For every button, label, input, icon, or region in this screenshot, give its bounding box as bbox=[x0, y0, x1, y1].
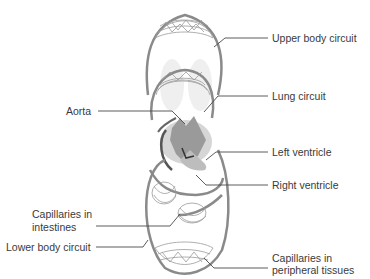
lower-body-circuit-loop bbox=[146, 150, 228, 274]
label-lower-body-circuit: Lower body circuit bbox=[6, 241, 91, 253]
heart bbox=[158, 116, 212, 171]
lungs-shading bbox=[160, 59, 212, 111]
label-capillaries-intestines-line2: intestines bbox=[32, 221, 76, 233]
label-left-ventricle: Left ventricle bbox=[272, 146, 332, 158]
intestine-capillaries bbox=[152, 182, 206, 223]
upper-capillaries-mesh bbox=[155, 20, 213, 38]
circulation-diagram: Upper body circuit Lung circuit Aorta Le… bbox=[0, 0, 370, 279]
label-capillaries-peripheral-line2: peripheral tissues bbox=[272, 264, 354, 276]
label-capillaries-peripheral-line1: Capillaries in bbox=[272, 252, 332, 264]
label-upper-body-circuit: Upper body circuit bbox=[272, 32, 357, 44]
label-aorta: Aorta bbox=[66, 105, 91, 117]
label-capillaries-intestines-line1: Capillaries in bbox=[32, 208, 92, 220]
label-right-ventricle: Right ventricle bbox=[272, 179, 339, 191]
peripheral-capillaries-mesh bbox=[155, 242, 213, 265]
label-lung-circuit: Lung circuit bbox=[272, 90, 326, 102]
